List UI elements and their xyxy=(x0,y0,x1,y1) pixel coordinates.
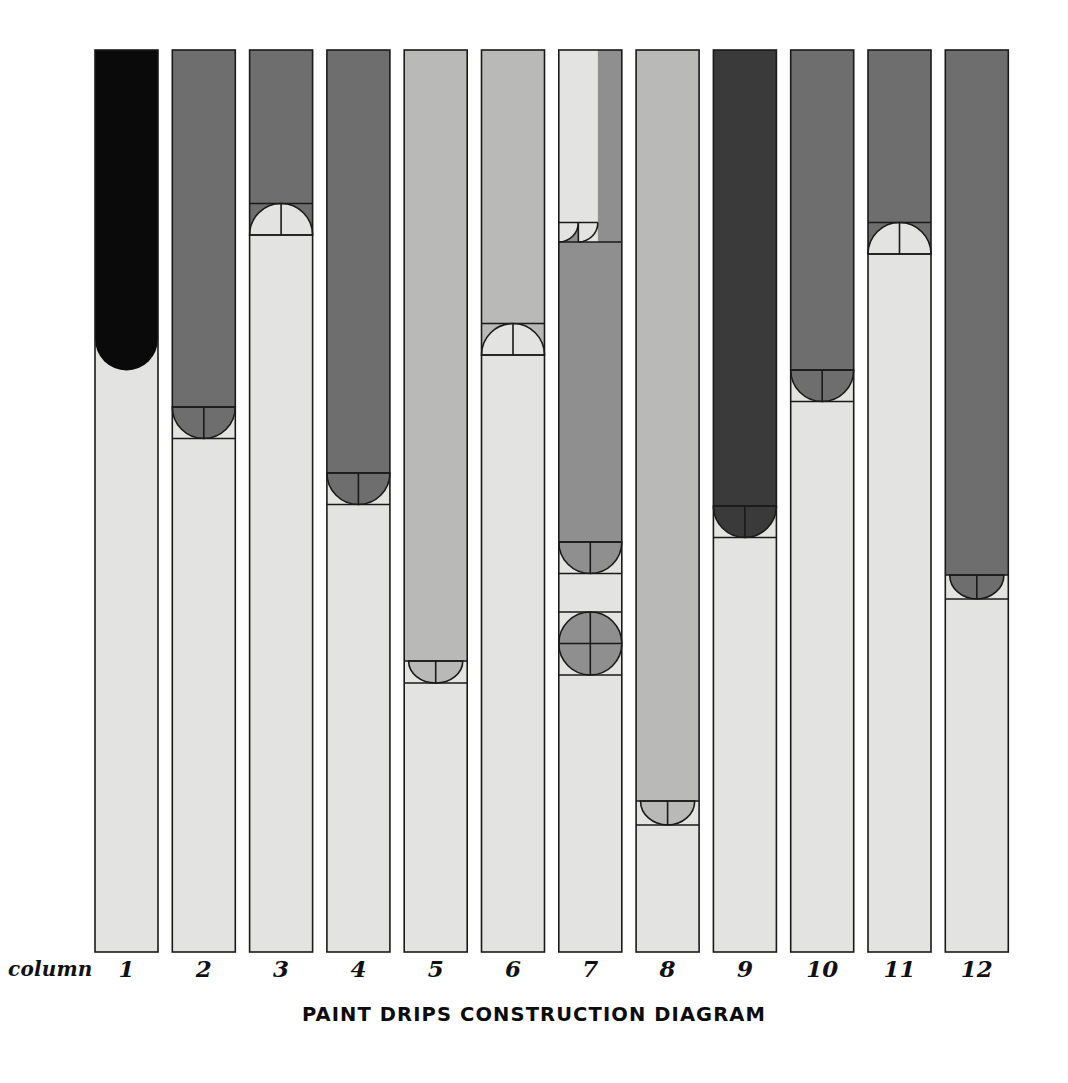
column-number-1: 1 xyxy=(118,955,134,982)
column-number-5: 5 xyxy=(428,955,444,982)
paint-drips-figure xyxy=(0,0,1068,1083)
paint-column-2 xyxy=(172,50,235,952)
column-channel-7 xyxy=(559,50,598,242)
column-paint-1 xyxy=(95,50,158,339)
paint-column-5 xyxy=(404,50,467,952)
paint-column-7 xyxy=(559,50,622,952)
column-number-7: 7 xyxy=(582,955,598,982)
column-paint-12 xyxy=(945,50,1008,575)
paint-column-11 xyxy=(868,50,931,952)
column-paint-5 xyxy=(404,50,467,661)
column-paint-4 xyxy=(327,50,390,473)
paint-column-9 xyxy=(713,50,776,952)
paint-column-3 xyxy=(250,50,313,952)
paint-column-4 xyxy=(327,50,390,952)
column-number-3: 3 xyxy=(273,955,289,982)
paint-column-10 xyxy=(791,50,854,952)
column-number-2: 2 xyxy=(196,955,212,982)
column-number-9: 9 xyxy=(737,955,753,982)
column-paint-10 xyxy=(791,50,854,370)
paint-column-8 xyxy=(636,50,699,952)
column-paint-8 xyxy=(636,50,699,801)
column-paint-2 xyxy=(172,50,235,407)
column-number-10: 10 xyxy=(806,955,838,982)
paint-column-6 xyxy=(482,50,545,952)
column-number-11: 11 xyxy=(883,955,915,982)
paint-column-1 xyxy=(95,50,158,952)
column-number-6: 6 xyxy=(505,955,521,982)
column-number-4: 4 xyxy=(350,955,366,982)
axis-row-label: column xyxy=(8,957,93,981)
diagram-canvas: column 1 2 3 4 5 6 7 8 9 10 11 12 PAINT … xyxy=(0,0,1068,1083)
column-paint-6 xyxy=(482,50,545,355)
diagram-title: PAINT DRIPS CONSTRUCTION DIAGRAM xyxy=(0,1003,1068,1026)
column-paint-9 xyxy=(713,50,776,506)
column-number-8: 8 xyxy=(660,955,676,982)
column-number-12: 12 xyxy=(961,955,993,982)
paint-column-12 xyxy=(945,50,1008,952)
